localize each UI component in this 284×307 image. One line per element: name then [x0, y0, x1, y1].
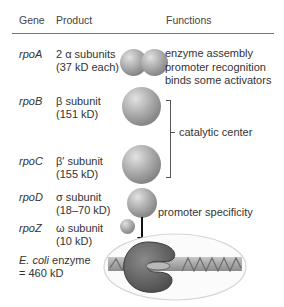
function-promoter-specificity: promoter specificity	[158, 206, 253, 219]
total-enzyme-mass: = 460 kD	[19, 267, 63, 280]
product-beta-prime-mass: (155 kD)	[56, 168, 98, 181]
organism-name: E. coli	[19, 254, 49, 266]
product-alpha-mass: (37 kD each)	[56, 61, 119, 74]
product-beta: β subunit	[56, 95, 101, 108]
dna-in-cleft	[146, 262, 170, 270]
catalytic-bracket	[166, 100, 171, 178]
product-omega: ω subunit	[56, 222, 103, 235]
product-beta-mass: (151 kD)	[56, 108, 98, 121]
gene-rpoB: rpoB	[19, 95, 42, 108]
header-functions: Functions	[166, 14, 212, 27]
beta-prime-subunit-sphere	[122, 145, 161, 184]
gene-rpoD: rpoD	[19, 191, 43, 204]
beta-subunit-sphere	[122, 87, 161, 126]
enzyme-word: enzyme	[49, 254, 91, 266]
product-omega-mass: (10 kD)	[56, 235, 92, 248]
gene-rpoA: rpoA	[19, 48, 42, 61]
gene-rpoZ: rpoZ	[19, 222, 42, 235]
function-promoter-recognition: promoter recognition	[165, 61, 266, 74]
gene-rpoC: rpoC	[19, 155, 43, 168]
total-enzyme-label: E. coli enzyme	[19, 254, 91, 267]
product-sigma-mass: (18–70 kD)	[56, 204, 110, 217]
header-gene: Gene	[19, 14, 45, 27]
sigma-subunit-sphere	[127, 188, 157, 218]
alpha-subunit-sphere-2	[141, 49, 168, 76]
header-rule	[12, 33, 274, 34]
product-sigma: σ subunit	[56, 191, 101, 204]
holoenzyme-dna-illustration	[100, 228, 250, 304]
function-catalytic-center: catalytic center	[179, 126, 252, 139]
header-product: Product	[56, 14, 92, 27]
function-binds-activators: binds some activators	[165, 74, 271, 87]
catalytic-bracket-tick	[170, 132, 175, 133]
function-enzyme-assembly: enzyme assembly	[165, 47, 253, 60]
product-alpha: 2 α subunits	[56, 48, 116, 61]
product-beta-prime: β′ subunit	[56, 155, 103, 168]
